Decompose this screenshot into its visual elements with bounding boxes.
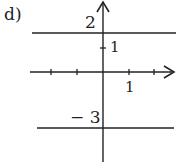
y-tick-label: 1 xyxy=(110,40,120,55)
figure-label: d) xyxy=(4,6,22,23)
line-label-minus-3: − 3 xyxy=(70,109,100,126)
x-tick-label: 1 xyxy=(125,80,135,95)
line-label-2: 2 xyxy=(85,14,96,31)
